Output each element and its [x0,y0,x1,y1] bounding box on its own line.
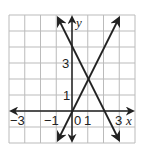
x-tick-0: 0 [74,113,81,128]
coordinate-plane: y x −3 −1 0 1 3 1 3 [0,0,142,153]
y-axis-label: y [74,15,82,30]
x-tick-3: 3 [115,113,122,128]
y-tick-3: 3 [62,56,69,71]
x-tick-1: 1 [84,113,91,128]
y-tick-1: 1 [63,88,70,103]
x-tick-neg1: −1 [44,113,59,128]
x-tick-neg3: −3 [10,113,25,128]
x-axis-label: x [125,113,132,128]
